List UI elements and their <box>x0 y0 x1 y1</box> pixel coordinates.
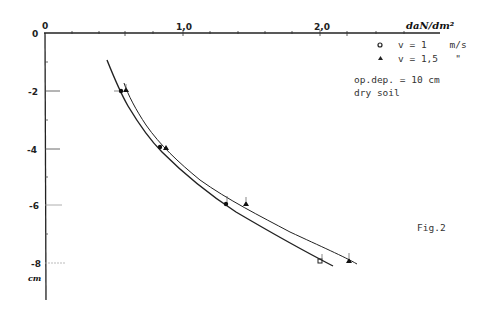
chart: 0 0 1,0 2,0 daN/dm² -2 -4 -6 -8 cm v = 1… <box>0 0 496 311</box>
annotation-soil: dry soil <box>354 87 400 98</box>
y-tick-label-3: -6 <box>29 201 39 211</box>
origin-x-label: 0 <box>42 21 48 31</box>
curve-v1 <box>107 60 333 266</box>
legend-label-v1: v = 1 m/s <box>398 39 467 50</box>
y-tick-label-4: -8 <box>31 259 41 269</box>
series-v1-points <box>119 89 322 263</box>
legend: v = 1 m/s v = 1,5 " <box>378 39 467 64</box>
y-tick-label-1: -2 <box>28 87 38 97</box>
figure-label: Fig.2 <box>417 222 446 233</box>
y-unit-label: cm <box>28 273 41 283</box>
x-tick-label-1: 1,0 <box>176 22 192 32</box>
y-tick-label-2: -4 <box>27 145 37 155</box>
triangle-marker-icon <box>378 56 383 60</box>
legend-label-v15: v = 1,5 " <box>398 53 461 64</box>
circle-marker-icon <box>378 43 382 47</box>
y-axis-ticks <box>45 62 66 263</box>
annotation-operating-depth: op.dep. = 10 cm <box>354 74 440 85</box>
x-unit-label: daN/dm² <box>406 20 455 31</box>
origin-y-label: 0 <box>32 29 38 39</box>
series-v15-points <box>123 87 352 263</box>
curve-v15 <box>124 83 357 264</box>
x-tick-label-2: 2,0 <box>314 22 330 32</box>
error-marks <box>114 84 349 259</box>
y-axis <box>45 33 46 300</box>
